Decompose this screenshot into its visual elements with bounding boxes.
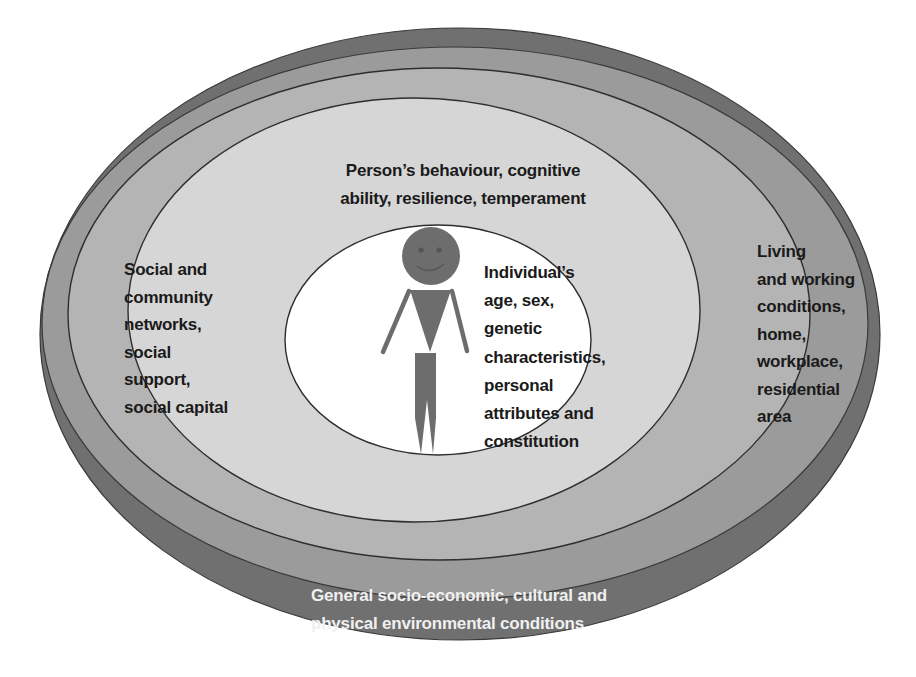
figure-head bbox=[402, 227, 460, 285]
living-working-label: Living and working conditions, home, wor… bbox=[757, 238, 855, 431]
outer-environment-label: General socio-economic, cultural and phy… bbox=[311, 582, 607, 637]
individual-label: Individual’s age, sex, genetic character… bbox=[484, 259, 606, 456]
social-networks-label: Social and community networks, social su… bbox=[124, 256, 228, 421]
behaviour-label: Person’s behaviour, cognitive ability, r… bbox=[318, 157, 608, 212]
